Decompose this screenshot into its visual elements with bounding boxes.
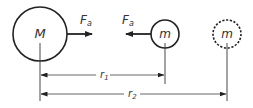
gravitation-diagram: M Fa Fa m m r1 r2 bbox=[0, 0, 253, 108]
force-on-m-label: Fa bbox=[122, 13, 134, 28]
force-on-M: Fa bbox=[67, 13, 92, 34]
large-mass-label: M bbox=[34, 26, 45, 41]
distance-r1: r1 bbox=[41, 69, 164, 82]
force-on-m: Fa bbox=[122, 13, 151, 34]
distance-r2-label: r2 bbox=[128, 88, 137, 101]
distance-r1-label: r1 bbox=[100, 69, 109, 82]
force-on-M-label: Fa bbox=[80, 13, 92, 28]
small-mass-label: m bbox=[159, 27, 171, 41]
small-mass-far-label: m bbox=[221, 27, 233, 41]
distance-r2: r2 bbox=[41, 88, 226, 101]
